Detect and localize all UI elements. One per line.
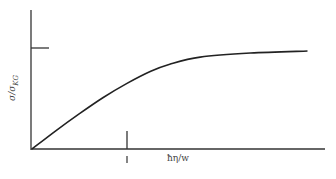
- x-axis-label: ħη/w: [167, 153, 189, 163]
- y-axis-label: σ/σKG: [7, 41, 21, 101]
- data-curve: [32, 51, 308, 149]
